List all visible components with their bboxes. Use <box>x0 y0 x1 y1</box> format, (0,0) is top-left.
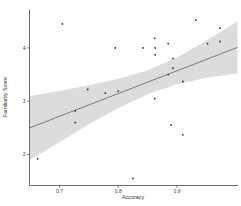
y-tick-label: 3 <box>23 98 26 104</box>
data-point <box>195 19 197 21</box>
data-point <box>74 110 76 112</box>
data-point <box>207 43 209 45</box>
data-point <box>172 67 174 69</box>
data-point <box>219 27 221 29</box>
data-point <box>167 74 169 76</box>
y-axis-ticks: 234 <box>23 45 30 158</box>
data-point <box>182 134 184 136</box>
x-axis-label: Accuracy <box>122 194 144 200</box>
data-point <box>117 90 119 92</box>
data-point <box>170 124 172 126</box>
data-point <box>172 58 174 60</box>
data-point <box>74 122 76 124</box>
data-point <box>114 47 116 49</box>
regression-line <box>30 47 238 128</box>
x-tick-label: 0.9 <box>174 188 181 194</box>
scatter-plot-figure: 0.70.80.9 234 Accuracy Familiarity Score <box>0 0 241 206</box>
data-point <box>154 98 156 100</box>
data-point <box>154 54 156 56</box>
data-point <box>154 37 156 39</box>
data-point <box>167 43 169 45</box>
data-point <box>142 47 144 49</box>
data-point <box>219 41 221 43</box>
y-tick-label: 2 <box>23 151 26 157</box>
x-tick-label: 0.8 <box>115 188 122 194</box>
data-point <box>182 81 184 83</box>
data-point <box>132 178 134 180</box>
x-axis-ticks: 0.70.80.9 <box>56 186 181 195</box>
y-tick-label: 4 <box>23 45 26 51</box>
x-tick-label: 0.7 <box>56 188 63 194</box>
data-point <box>37 158 39 160</box>
confidence-band <box>30 21 238 160</box>
data-point <box>62 23 64 25</box>
data-point <box>87 89 89 91</box>
data-point <box>104 92 106 94</box>
data-point <box>154 47 156 49</box>
confidence-band-area <box>30 21 238 160</box>
chart-canvas: 0.70.80.9 234 Accuracy Familiarity Score <box>0 0 241 206</box>
regression-line-segment <box>30 47 238 128</box>
y-axis-label: Familiarity Score <box>2 77 8 117</box>
